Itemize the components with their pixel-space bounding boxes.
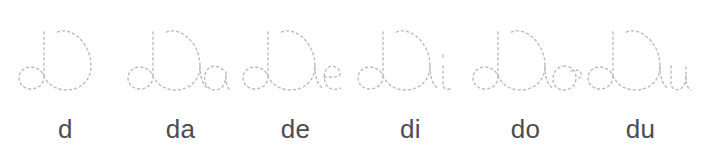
- tracing-glyph-da: [123, 0, 238, 110]
- glyph-da-strokes: [128, 31, 229, 90]
- tracing-glyph-d: [8, 0, 123, 110]
- tracing-glyph-di: [353, 0, 468, 110]
- label-du: du: [583, 108, 698, 157]
- glyph-d-strokes: [19, 31, 91, 90]
- label-row: d da de di do du: [0, 108, 709, 157]
- tracing-glyph-de: [238, 0, 353, 110]
- label-do: do: [468, 108, 583, 157]
- tracing-glyph-du: [583, 0, 698, 110]
- glyph-de-strokes: [243, 31, 341, 90]
- tracing-glyph-row: [0, 0, 709, 110]
- tracing-glyph-do: [468, 0, 583, 110]
- label-di: di: [353, 108, 468, 157]
- glyph-du-strokes: [588, 31, 691, 90]
- label-de: de: [238, 108, 353, 157]
- glyph-di-strokes: [358, 31, 450, 90]
- tracing-worksheet: d da de di do du: [0, 0, 709, 157]
- label-da: da: [123, 108, 238, 157]
- glyph-do-strokes: [473, 31, 581, 90]
- label-d: d: [8, 108, 123, 157]
